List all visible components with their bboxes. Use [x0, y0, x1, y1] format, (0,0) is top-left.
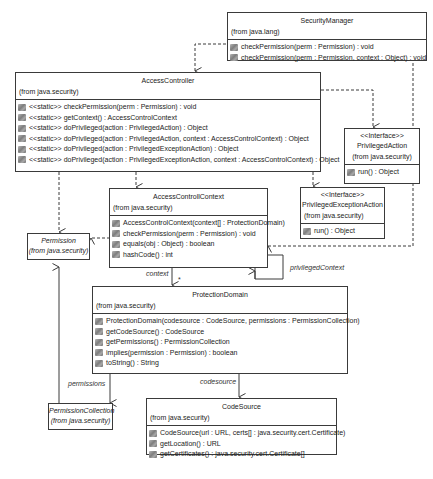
label-multiplicity: * [178, 276, 181, 283]
method-icon [112, 241, 120, 248]
interface-privileged-action[interactable]: <<Interface>> PrivilegedAction (from jav… [344, 128, 420, 184]
label-context: context [146, 270, 169, 277]
class-name: SecurityManager [228, 13, 426, 26]
operation[interactable]: getPermissions() : PermissionCollection [95, 337, 345, 348]
operation[interactable]: toString() : String [95, 358, 345, 369]
operations-list: AccessControlContext(context[] : Protect… [110, 215, 267, 262]
class-name: AccessController [16, 73, 320, 86]
operations-list: ProtectionDomain(codesource : CodeSource… [93, 313, 347, 371]
operation[interactable]: <<static>> getContext() : AccessControlC… [18, 113, 318, 124]
operation[interactable]: <<static>> doPrivileged(action : Privile… [18, 155, 318, 166]
operation[interactable]: AccessControlContext(context[] : Protect… [112, 218, 265, 229]
class-name: PrivilegedExceptionAction [301, 200, 384, 210]
package-label: (from java.security) [93, 300, 347, 313]
method-icon [95, 328, 103, 335]
method-icon [112, 251, 120, 258]
operation[interactable]: getCodeSource() : CodeSource [95, 327, 345, 338]
operation[interactable]: getCertificates() : java.security.cert.C… [149, 449, 334, 460]
method-icon [18, 104, 26, 111]
package-label: (from java.security) [345, 151, 419, 164]
operation[interactable]: ProtectionDomain(codesource : CodeSource… [95, 316, 345, 327]
package-label: (from java.security) [147, 412, 336, 425]
operations-list: <<static>> checkPermission(perm : Permis… [16, 99, 320, 167]
operation[interactable]: getLocation() : URL [149, 439, 334, 450]
class-code-source[interactable]: CodeSource (from java.security) CodeSour… [146, 398, 337, 455]
operation[interactable]: hashCode() : int [112, 250, 265, 261]
class-security-manager[interactable]: SecurityManager (from java.lang) checkPe… [227, 12, 427, 61]
class-name: Permission [28, 236, 89, 246]
label-privileged-context: privilegedContext [290, 264, 344, 271]
class-name: ProtectionDomain [93, 287, 347, 300]
package-label: (from java.security) [49, 416, 112, 426]
class-permission[interactable]: Permission (from java.security) [27, 233, 90, 260]
label-codesource: codesource [200, 378, 236, 385]
class-name: PrivilegedAction [345, 141, 419, 151]
package-label: (from java.security) [110, 202, 267, 215]
method-icon [347, 169, 355, 176]
class-access-controller[interactable]: AccessController (from java.security) <<… [15, 72, 321, 172]
method-icon [18, 125, 26, 132]
method-icon [230, 44, 238, 51]
label-permissions: permissions [68, 380, 105, 387]
operation[interactable]: <<static>> doPrivileged(action : Privile… [18, 144, 318, 155]
method-icon [112, 230, 120, 237]
operation[interactable]: checkPermission(perm : Permission, conte… [230, 53, 424, 64]
package-label: (from java.security) [28, 246, 89, 256]
operation[interactable]: checkPermission(perm : Permission) : voi… [230, 42, 424, 53]
operation[interactable]: <<static>> doPrivileged(action : Privile… [18, 134, 318, 145]
class-name: PermissionCollection [49, 406, 112, 416]
method-icon [112, 220, 120, 227]
operation[interactable]: checkPermission(perm : Permission) : voi… [112, 229, 265, 240]
class-protection-domain[interactable]: ProtectionDomain (from java.security) Pr… [92, 286, 348, 374]
operation[interactable]: run() : Object [347, 167, 417, 178]
method-icon [95, 349, 103, 356]
method-icon [230, 54, 238, 61]
operation[interactable]: CodeSource(url : URL, certs[] : java.sec… [149, 428, 334, 439]
operations-list: CodeSource(url : URL, certs[] : java.sec… [147, 425, 336, 462]
class-name: AccessControllContext [110, 189, 267, 202]
method-icon [18, 146, 26, 153]
method-icon [18, 114, 26, 121]
stereotype: <<Interface>> [301, 188, 384, 200]
operation[interactable]: equals(obj : Object) : boolean [112, 239, 265, 250]
operation[interactable]: run() : Object [303, 226, 382, 237]
class-access-control-context[interactable]: AccessControllContext (from java.securit… [109, 188, 268, 268]
method-icon [95, 339, 103, 346]
operation[interactable]: <<static>> checkPermission(perm : Permis… [18, 102, 318, 113]
method-icon [18, 156, 26, 163]
operation[interactable]: implies(permission : Permission) : boole… [95, 348, 345, 359]
method-icon [149, 451, 157, 458]
class-permission-collection[interactable]: PermissionCollection (from java.security… [48, 403, 113, 430]
interface-privileged-exception-action[interactable]: <<Interface>> PrivilegedExceptionAction … [300, 187, 385, 239]
method-icon [95, 360, 103, 367]
operations-list: checkPermission(perm : Permission) : voi… [228, 39, 426, 65]
package-label: (from java.security) [301, 210, 384, 223]
package-label: (from java.security) [16, 86, 320, 99]
method-icon [149, 440, 157, 447]
operations-list: run() : Object [301, 223, 384, 239]
method-icon [149, 430, 157, 437]
method-icon [95, 318, 103, 325]
method-icon [18, 135, 26, 142]
operation[interactable]: <<static>> doPrivileged(action : Privile… [18, 123, 318, 134]
operations-list: run() : Object [345, 164, 419, 180]
stereotype: <<Interface>> [345, 129, 419, 141]
method-icon [303, 228, 311, 235]
package-label: (from java.lang) [228, 26, 426, 39]
class-name: CodeSource [147, 399, 336, 412]
